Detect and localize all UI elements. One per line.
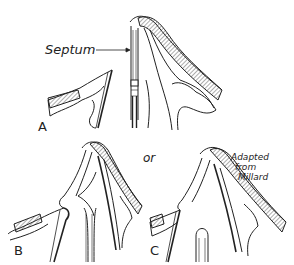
or-label: or — [143, 152, 155, 164]
credit-line-3: Millard — [238, 173, 268, 182]
credit-line-1: Adapted — [231, 153, 269, 162]
septum-arrow — [96, 48, 130, 52]
credit-line-2: from — [235, 163, 256, 172]
panel-b-label: B — [14, 244, 23, 257]
panel-a-drawing — [48, 16, 222, 130]
panel-a-label: A — [38, 120, 47, 133]
panel-c-drawing — [150, 147, 286, 262]
panel-b-drawing — [8, 142, 142, 262]
figure-canvas: Septum A B C or Adapted from Millard — [0, 0, 294, 265]
septum-label: Septum — [45, 43, 96, 56]
panel-c-label: C — [150, 244, 159, 257]
